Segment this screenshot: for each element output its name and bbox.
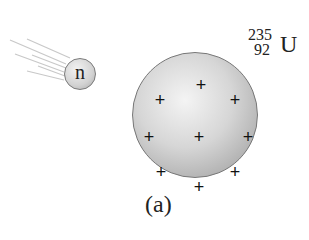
plus-charge-icon: + (152, 163, 170, 181)
isotope-label: 235 92 U (248, 27, 308, 67)
uranium-nucleus: + + + + + + + + + (132, 52, 258, 178)
plus-charge-icon: + (226, 163, 244, 181)
plus-charge-icon: + (190, 178, 208, 196)
plus-charge-icon: + (226, 91, 244, 109)
plus-charge-icon: + (239, 128, 257, 146)
element-symbol: U (280, 32, 297, 56)
plus-charge-icon: + (140, 128, 158, 146)
neutron: n (64, 58, 96, 90)
atomic-number: 92 (254, 42, 270, 58)
neutron-label: n (75, 61, 85, 83)
plus-charge-icon: + (192, 76, 210, 94)
plus-charge-icon: + (151, 91, 169, 109)
figure-caption: (a) (145, 190, 172, 218)
plus-charge-icon: + (190, 128, 208, 146)
